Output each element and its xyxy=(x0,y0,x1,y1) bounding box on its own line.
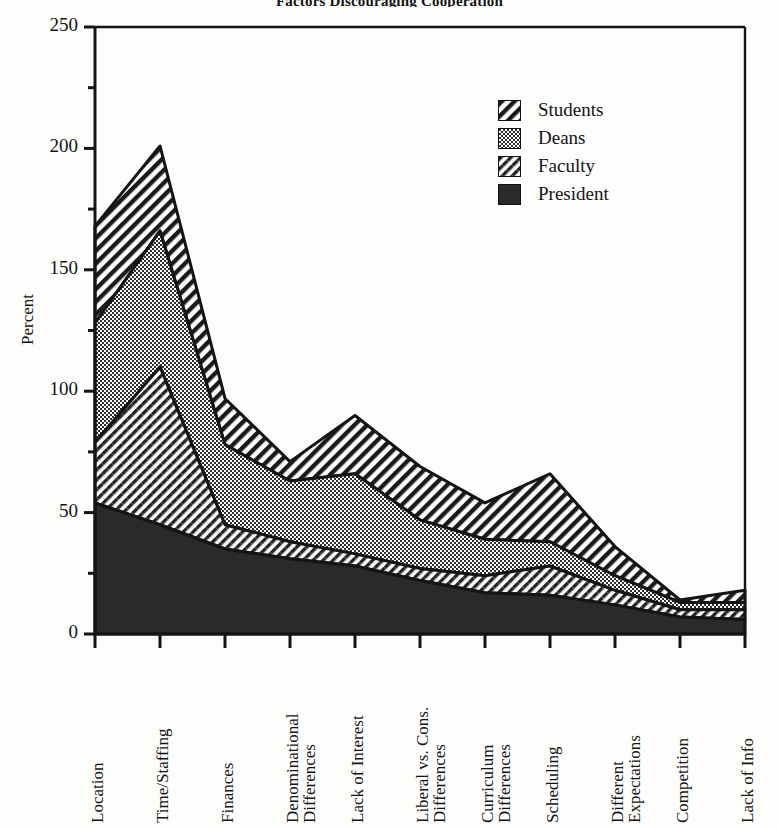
legend-swatch-dotted-icon xyxy=(498,128,521,149)
y-tick-label: 100 xyxy=(50,378,79,400)
legend-item-deans[interactable]: Deans xyxy=(498,124,708,152)
series-layer xyxy=(95,146,745,634)
legend-swatch-diagonal-hatch-icon xyxy=(498,100,521,121)
legend-item-faculty[interactable]: Faculty xyxy=(498,152,708,180)
chart-legend: StudentsDeansFacultyPresident xyxy=(498,96,708,208)
x-tick-label: Scheduling xyxy=(544,747,561,824)
x-tick-label: Competition xyxy=(674,738,691,823)
x-tick-label: Time/Staffing xyxy=(154,729,171,823)
x-tick-label: Lack of Interest xyxy=(349,715,366,823)
y-tick-label: 200 xyxy=(50,135,79,157)
legend-label: Students xyxy=(538,99,603,121)
x-tick-label: Liberal vs. Cons.Differences xyxy=(414,707,448,823)
x-tick-label: DenominationalDifferences xyxy=(284,713,318,823)
legend-label: Deans xyxy=(538,127,585,149)
legend-swatch-sparse-diagonal-icon xyxy=(498,156,521,177)
x-tick-label: Location xyxy=(89,763,106,823)
legend-swatch-solid-icon xyxy=(498,184,521,205)
y-tick-label: 150 xyxy=(50,257,79,279)
x-tick-label: DifferentExpectations xyxy=(609,735,643,823)
y-tick-label: 50 xyxy=(59,500,78,522)
legend-item-president[interactable]: President xyxy=(498,180,708,208)
legend-label: Faculty xyxy=(538,155,595,177)
x-tick-label: Lack of Info xyxy=(739,738,756,823)
legend-label: President xyxy=(538,183,609,205)
y-axis-title-text: Percent xyxy=(18,294,38,345)
y-tick-label: 250 xyxy=(50,14,79,36)
legend-item-students[interactable]: Students xyxy=(498,96,708,124)
stacked-area-chart: Factors Discouraging Cooperation xyxy=(0,0,779,829)
x-tick-label: CurriculumDifferences xyxy=(479,744,513,823)
x-tick-label: Finances xyxy=(219,763,236,823)
y-tick-label: 0 xyxy=(69,621,79,643)
